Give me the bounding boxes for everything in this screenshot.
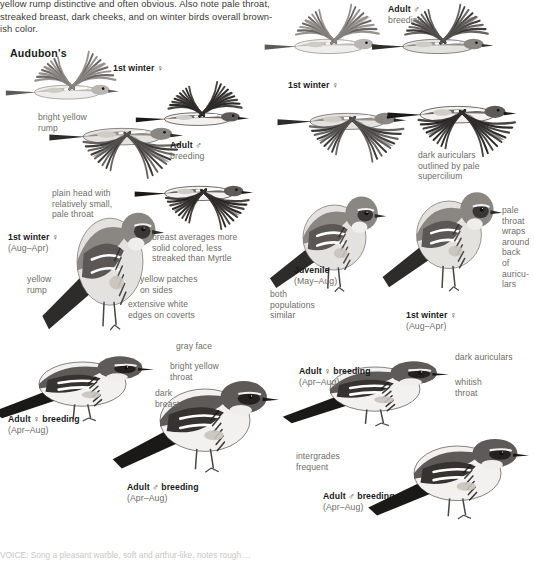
label-title: Adult ♀ breeding	[299, 366, 371, 376]
label-title: Juvenile	[294, 265, 329, 275]
label-juvenile: Juvenile(May–Aug)	[294, 265, 337, 287]
label-line: populations	[270, 300, 315, 311]
footer-voice-text: VOICE: Song a pleasant warble, soft and …	[0, 550, 330, 561]
label-adult-male-breeding-bottomright: Adult ♂ breeding(Apr–Aug)	[323, 491, 395, 513]
intro-line-2: streaked breast, dark cheeks, and on win…	[0, 11, 292, 24]
label-line: on sides	[140, 285, 198, 296]
label-title: 1st winter ♀	[113, 63, 164, 73]
label-adult-female-breeding-right: Adult ♀ breeding(Apr–Aug)	[299, 366, 371, 388]
label-line: around	[502, 237, 529, 248]
label-dark-breast: darkbreast	[155, 388, 179, 409]
label-title: Adult ♂ breeding	[323, 491, 395, 501]
label-adult-male-breeding-left: Adult ♂breeding	[170, 140, 205, 162]
label-plain-head-note: plain head withrelatively small,pale thr…	[52, 188, 112, 220]
label-line: plain head with	[52, 188, 112, 199]
label-whitish-throat: whitishthroat	[455, 377, 482, 398]
label-line: auricu-	[502, 269, 529, 280]
label-line: dark auriculars	[418, 150, 480, 161]
label-line: back of	[502, 247, 529, 268]
label-line: rump	[27, 285, 51, 296]
label-subtitle: (May–Aug)	[294, 276, 337, 287]
bird-perched-adult-female-breeding-right	[300, 350, 450, 435]
label-yellow-patches-sides: yellow patcheson sides	[140, 274, 198, 295]
label-line: edges on coverts	[128, 310, 195, 321]
label-dark-auriculars-supercilium: dark auricularsoutlined by palesupercili…	[418, 150, 480, 182]
label-line: bright yellow	[38, 112, 87, 123]
label-breast-averages-note: breast averages moresolid colored, lesss…	[152, 232, 237, 264]
label-intergrades-frequent: intergradesfrequent	[296, 451, 340, 472]
label-line: dark	[155, 388, 179, 399]
label-subtitle: (Apr–Aug)	[8, 425, 80, 436]
label-first-winter-female-left: 1st winter ♀(Aug–Apr)	[8, 232, 59, 254]
label-line: throat	[455, 388, 482, 399]
label-line: breast averages more	[152, 232, 237, 243]
label-line: streaked than Myrtle	[152, 253, 237, 264]
label-line: throat	[502, 216, 529, 227]
intro-line-1: yellow rump distinctive and often obviou…	[0, 0, 292, 11]
bird-flying-small-topleft	[160, 85, 270, 140]
label-line: intergrades	[296, 451, 340, 462]
label-line: dark auriculars	[455, 352, 513, 363]
label-subtitle: (Aug–Apr)	[406, 321, 457, 332]
bird-flying-adult-male-breeding-left	[160, 155, 275, 217]
label-first-winter-female-topleft: 1st winter ♀	[113, 63, 164, 74]
label-title: 1st winter ♀	[406, 310, 457, 320]
label-bright-yellow-throat: bright yellowthroat	[170, 361, 219, 382]
label-line: gray face	[176, 341, 212, 352]
bird-perched-1st-winter-female-right	[395, 175, 503, 305]
label-gray-face: gray face	[176, 341, 212, 352]
label-line: relatively small,	[52, 199, 112, 210]
label-line: breast	[155, 399, 179, 410]
label-line: supercilium	[418, 171, 480, 182]
label-yellow-rump-left: yellowrump	[27, 274, 51, 295]
label-line: solid colored, less	[152, 243, 237, 254]
label-both-populations-similar: bothpopulationssimilar	[270, 289, 315, 321]
label-adult-female-breeding-left: Adult ♀ breeding(Apr–Aug)	[8, 414, 80, 436]
label-subtitle: breeding	[170, 151, 205, 162]
label-subtitle: (Apr–Aug)	[127, 493, 199, 504]
intro-paragraph: yellow rump distinctive and often obviou…	[0, 0, 292, 36]
label-line: extensive white	[128, 299, 195, 310]
label-line: yellow	[27, 274, 51, 285]
label-line: rump	[38, 123, 87, 134]
label-title: 1st winter ♀	[288, 80, 339, 90]
label-adult-male-breeding-topright: Adult ♂breeding	[388, 4, 423, 26]
label-adult-male-breeding-bottomleft: Adult ♂ breeding(Apr–Aug)	[127, 482, 199, 504]
label-title: 1st winter ♀	[8, 232, 59, 242]
label-line: whitish	[455, 377, 482, 388]
label-title: Adult ♂	[388, 4, 420, 14]
label-bright-yellow-rump: bright yellowrump	[38, 112, 87, 133]
label-line: pale	[502, 205, 529, 216]
label-line: outlined by pale	[418, 161, 480, 172]
label-line: similar	[270, 310, 315, 321]
label-pale-throat-wraps: palethroatwrapsaroundback ofauricu-lars	[502, 205, 529, 290]
label-extensive-white-edges: extensive whiteedges on coverts	[128, 299, 195, 320]
bird-flying-adult-male-breeding-midright	[415, 70, 534, 142]
label-subtitle: (Apr–Aug)	[323, 502, 395, 513]
label-line: throat	[170, 372, 219, 383]
label-title: Adult ♀ breeding	[8, 414, 80, 424]
bird-perched-adult-male-breeding-bottomleft	[130, 365, 280, 485]
label-line: frequent	[296, 462, 340, 473]
label-dark-auriculars-right: dark auriculars	[455, 352, 513, 363]
label-line: pale throat	[52, 209, 112, 220]
intro-line-3: ish color.	[0, 23, 292, 36]
label-subtitle: (Aug–Apr)	[8, 243, 59, 254]
label-first-winter-female-midright: 1st winter ♀(Aug–Apr)	[406, 310, 457, 332]
label-first-winter-female-right: 1st winter ♀	[288, 80, 339, 91]
bird-perched-adult-male-breeding-bottomright	[385, 425, 530, 530]
label-title: Adult ♂ breeding	[127, 482, 199, 492]
label-subtitle: breeding	[388, 15, 423, 26]
label-subtitle: (Apr–Aug)	[299, 377, 371, 388]
label-line: bright yellow	[170, 361, 219, 372]
label-line: both	[270, 289, 315, 300]
label-line: wraps	[502, 226, 529, 237]
label-title: Adult ♂	[170, 140, 202, 150]
label-line: lars	[502, 279, 529, 290]
label-line: yellow patches	[140, 274, 198, 285]
